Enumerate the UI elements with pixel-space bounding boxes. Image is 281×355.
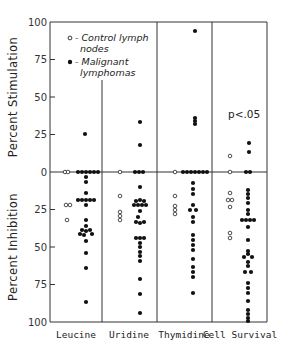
y-tick-labels: 100 75 50 25 0 25 50 75 100 <box>28 17 47 328</box>
category-label-uridine: Uridine <box>109 329 149 340</box>
x-category-labels: Leucine Uridine Thymidine Cell Survival <box>56 329 277 340</box>
tick-label: 0 <box>41 167 47 178</box>
tick-label: 25 <box>34 129 47 140</box>
category-label-cell-survival: Cell Survival <box>203 329 277 340</box>
tick-label: 100 <box>28 17 47 28</box>
y-axis-label-inhibition: Percent Inhibition <box>6 193 20 301</box>
legend: - Control lymph nodes - Malignant lympho… <box>68 32 149 78</box>
filled-circle-icon <box>68 60 72 64</box>
significance-annotation: p<.05 <box>228 108 260 120</box>
tick-label: 100 <box>28 317 47 328</box>
tick-label: 75 <box>34 54 47 65</box>
legend-label-malignant-2: lymphomas <box>80 67 135 78</box>
legend-label-malignant: - Malignant <box>75 56 130 67</box>
scatter-chart: Percent Stimulation Percent Inhibition 1… <box>0 0 281 355</box>
y-axis-label-stimulation: Percent Stimulation <box>6 37 20 157</box>
open-circle-icon <box>68 36 72 40</box>
control-points <box>63 154 234 240</box>
legend-label-control: - Control lymph <box>75 32 149 43</box>
category-label-leucine: Leucine <box>56 329 96 340</box>
legend-label-control-2: nodes <box>80 43 109 54</box>
tick-label: 50 <box>34 242 47 253</box>
tick-label: 75 <box>34 279 47 290</box>
tick-label: 50 <box>34 92 47 103</box>
tick-label: 25 <box>34 204 47 215</box>
